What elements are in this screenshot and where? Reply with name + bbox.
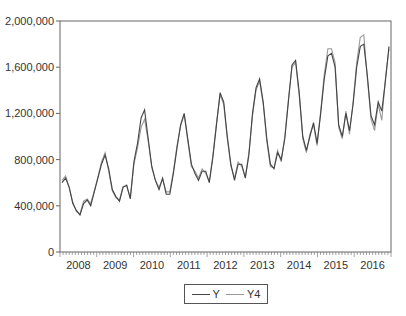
y-tick-label: 400,000 <box>14 200 54 212</box>
y-tick-label: 800,000 <box>14 154 54 166</box>
x-tick-label: 2008 <box>66 259 90 271</box>
x-tick-label: 2012 <box>213 259 237 271</box>
legend: Y Y4 <box>184 284 268 304</box>
x-axis: 200820092010201120122013201420152016 <box>60 252 391 271</box>
y-tick-label: 1,200,000 <box>5 107 54 119</box>
legend-item-y: Y <box>192 288 220 300</box>
legend-item-y4: Y4 <box>226 288 260 300</box>
legend-swatch-y <box>192 294 210 295</box>
x-tick-label: 2011 <box>177 259 201 271</box>
legend-swatch-y4 <box>226 294 244 295</box>
y-tick-label: 2,000,000 <box>5 15 54 27</box>
x-tick-label: 2014 <box>287 259 311 271</box>
y-tick-label: 1,600,000 <box>5 61 54 73</box>
y-tick-label: 0 <box>48 246 54 258</box>
x-tick-label: 2013 <box>250 259 274 271</box>
x-tick-label: 2009 <box>103 259 127 271</box>
legend-label-y: Y <box>213 288 220 300</box>
legend-label-y4: Y4 <box>247 288 260 300</box>
x-tick-label: 2016 <box>360 259 384 271</box>
y-axis: 0400,000800,0001,200,0001,600,0002,000,0… <box>5 15 60 258</box>
x-tick-label: 2015 <box>324 259 348 271</box>
x-tick-label: 2010 <box>140 259 164 271</box>
line-chart: 0400,000800,0001,200,0001,600,0002,000,0… <box>0 0 406 316</box>
